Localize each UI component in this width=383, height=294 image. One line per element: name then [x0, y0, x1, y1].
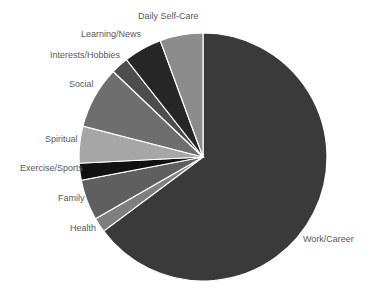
slice-label: Interests/Hobbies	[50, 50, 120, 60]
slice-label: Social	[69, 79, 94, 89]
pie-chart	[0, 0, 383, 294]
slice-label: Daily Self-Care	[138, 11, 199, 21]
slice-label: Learning/News	[81, 29, 141, 39]
slice-label: Spiritual	[45, 134, 78, 144]
slice-label: Exercise/Sports	[20, 163, 83, 173]
slice-label: Family	[58, 193, 85, 203]
slice-label: Health	[70, 223, 96, 233]
slice-label: Work/Career	[303, 234, 354, 244]
